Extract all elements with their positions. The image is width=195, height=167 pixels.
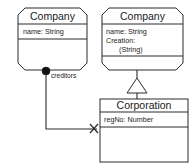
- hollow-triangle-icon: [127, 78, 147, 93]
- company-left-title: Company: [18, 11, 87, 22]
- company-right-attribute-creation: Creation:: [106, 37, 135, 45]
- company-right-attribute-creation-type: (String): [119, 46, 143, 54]
- filled-dot-icon: [42, 67, 50, 75]
- creditors-role-label: creditors: [51, 73, 76, 80]
- diagram-canvas: [0, 0, 195, 167]
- corporation-title: Corporation: [100, 100, 188, 111]
- company-right-attribute-name: name: String: [106, 28, 147, 36]
- generalization-relation[interactable]: [127, 70, 147, 99]
- company-left-attribute-name: name: String: [23, 28, 64, 36]
- creditors-connector-path: [46, 74, 97, 129]
- corporation-attribute-regno: regNo: Number: [104, 116, 153, 124]
- uml-class-diagram: Company name: String Company name: Strin…: [0, 0, 195, 167]
- company-right-title: Company: [102, 11, 183, 22]
